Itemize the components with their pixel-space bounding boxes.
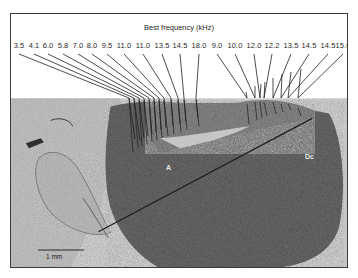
figure-frame: Best frequency (kHz) 3.5 4.1 6.0 5.8 7.0…: [10, 13, 348, 268]
scale-bar-label: 1 mm: [46, 253, 62, 260]
region-label-a: A: [166, 164, 171, 171]
electrode-leader-lines: [11, 14, 348, 268]
region-label-dc: Dc: [305, 153, 314, 160]
